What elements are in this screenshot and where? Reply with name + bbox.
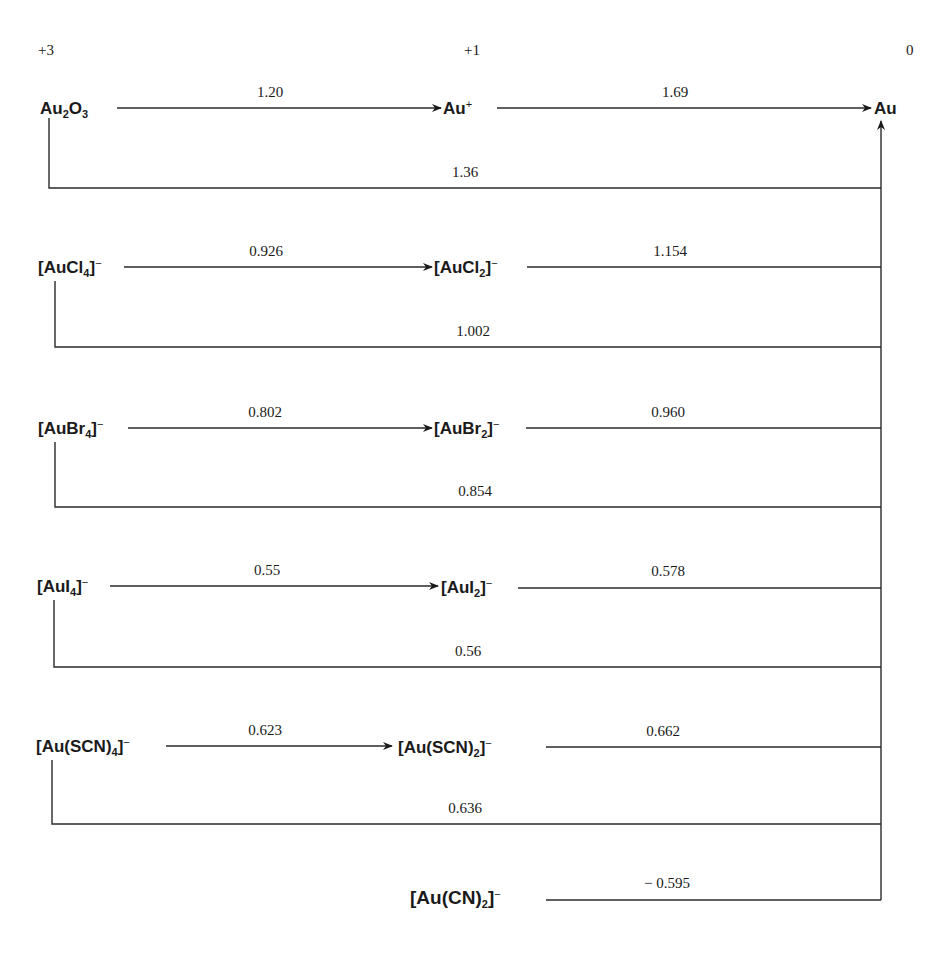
- potential-aucl2-au: 1.154: [653, 243, 687, 260]
- potential-aucl4-au: 1.002: [456, 323, 490, 340]
- species-auscn2: [Au(SCN)2]−: [398, 739, 492, 756]
- potential-aui2-au: 0.578: [651, 563, 685, 580]
- potential-au-plus-au: 1.69: [662, 84, 688, 101]
- potential-aucl4-aucl2: 0.926: [249, 243, 283, 260]
- potential-aubr2-au: 0.960: [651, 404, 685, 421]
- species-aucl4: [AuCl4]−: [38, 259, 102, 276]
- species-aubr2: [AuBr2]−: [434, 420, 499, 437]
- potential-aui4-au: 0.56: [455, 643, 481, 660]
- species-au: Au: [874, 100, 897, 117]
- potential-aui4-aui2: 0.55: [254, 562, 280, 579]
- potential-au2o3-au: 1.36: [452, 164, 478, 181]
- potential-aubr4-au: 0.854: [458, 483, 492, 500]
- potential-aucn2-au: − 0.595: [644, 875, 690, 892]
- potential-auscn4-auscn2: 0.623: [248, 722, 282, 739]
- species-au-plus: Au+: [443, 100, 472, 117]
- species-auscn4: [Au(SCN)4]−: [36, 738, 130, 755]
- species-aubr4: [AuBr4]−: [38, 420, 103, 437]
- potential-au2o3-au-plus: 1.20: [257, 84, 283, 101]
- potential-aubr4-aubr2: 0.802: [248, 404, 282, 421]
- species-au2o3: Au2O3: [40, 100, 88, 117]
- species-aucn2: [Au(CN)2]−: [410, 888, 501, 907]
- species-aui4: [AuI4]−: [37, 578, 88, 595]
- species-aucl2: [AuCl2]−: [434, 259, 498, 276]
- potential-auscn4-au: 0.636: [448, 800, 482, 817]
- potential-auscn2-au: 0.662: [646, 723, 680, 740]
- species-aui2: [AuI2]−: [441, 579, 492, 596]
